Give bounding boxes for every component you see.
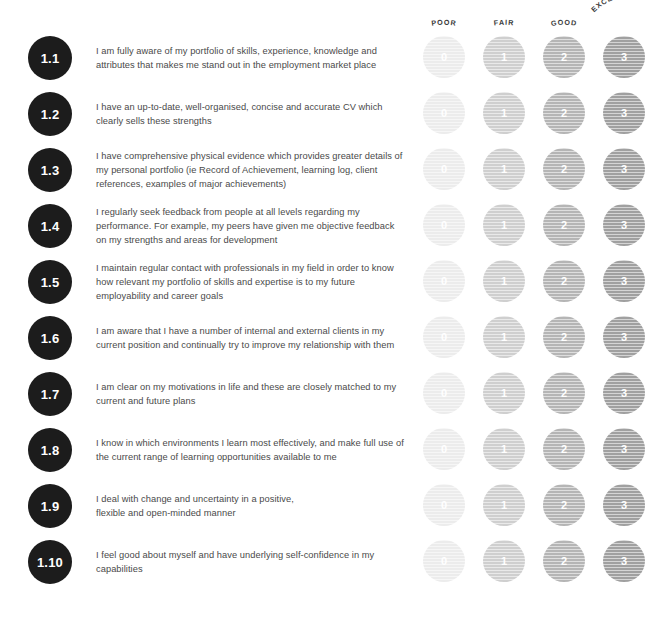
assessment-row: 1.6I am aware that I have a number of in… [0,310,670,366]
rating-option-value: 2 [561,387,567,399]
assessment-row: 1.2I have an up-to-date, well-organised,… [0,86,670,142]
rating-option-2[interactable]: 2 [543,148,585,190]
rating-option-value: 3 [621,107,627,119]
rating-option-2[interactable]: 2 [543,428,585,470]
rating-option-3[interactable]: 3 [603,316,645,358]
rating-option-3[interactable]: 3 [603,540,645,582]
rating-option-2[interactable]: 2 [543,484,585,526]
rating-option-3[interactable]: 3 [603,260,645,302]
rating-option-value: 0 [441,555,447,567]
rating-option-0[interactable]: 0 [423,428,465,470]
rating-scale: 0123 [0,540,670,584]
rating-option-1[interactable]: 1 [483,36,525,78]
rating-option-2[interactable]: 2 [543,36,585,78]
rating-option-0[interactable]: 0 [423,260,465,302]
rating-option-1[interactable]: 1 [483,540,525,582]
rating-option-2[interactable]: 2 [543,204,585,246]
assessment-row: 1.7I am clear on my motivations in life … [0,366,670,422]
rating-option-0[interactable]: 0 [423,316,465,358]
rating-option-value: 1 [501,275,507,287]
rating-option-value: 3 [621,275,627,287]
rating-option-value: 0 [441,51,447,63]
rating-option-value: 3 [621,51,627,63]
rating-scale: 0123 [0,36,670,80]
rating-option-value: 2 [561,499,567,511]
assessment-row: 1.1I am fully aware of my portfolio of s… [0,30,670,86]
rating-option-value: 0 [441,331,447,343]
rating-scale: 0123 [0,316,670,360]
rating-option-value: 1 [501,331,507,343]
rating-option-2[interactable]: 2 [543,372,585,414]
rating-option-3[interactable]: 3 [603,92,645,134]
assessment-row: 1.10I feel good about myself and have un… [0,534,670,590]
rating-option-3[interactable]: 3 [603,204,645,246]
rating-option-value: 0 [441,499,447,511]
rating-option-2[interactable]: 2 [543,92,585,134]
rating-option-value: 2 [561,219,567,231]
rating-option-1[interactable]: 1 [483,204,525,246]
rating-option-value: 3 [621,219,627,231]
rating-option-value: 1 [501,443,507,455]
rating-scale: 0123 [0,484,670,528]
rating-option-value: 3 [621,387,627,399]
svg-text:FAIR: FAIR [493,18,514,28]
rating-scale: 0123 [0,428,670,472]
assessment-row: 1.4I regularly seek feedback from people… [0,198,670,254]
rating-option-value: 3 [621,555,627,567]
rating-option-3[interactable]: 3 [603,484,645,526]
rating-option-value: 1 [501,51,507,63]
rating-option-1[interactable]: 1 [483,260,525,302]
rating-option-value: 0 [441,163,447,175]
assessment-row: 1.8I know in which environments I learn … [0,422,670,478]
rating-option-value: 1 [501,163,507,175]
rating-option-value: 2 [561,51,567,63]
rating-option-value: 0 [441,219,447,231]
rating-option-1[interactable]: 1 [483,148,525,190]
rating-scale: 0123 [0,372,670,416]
rating-option-value: 2 [561,443,567,455]
rating-option-2[interactable]: 2 [543,540,585,582]
rating-option-value: 3 [621,331,627,343]
rating-option-2[interactable]: 2 [543,316,585,358]
rating-option-1[interactable]: 1 [483,428,525,470]
svg-text:POOR: POOR [431,18,458,28]
rating-option-3[interactable]: 3 [603,36,645,78]
rating-option-1[interactable]: 1 [483,484,525,526]
rating-option-value: 1 [501,219,507,231]
svg-text:GOOD: GOOD [550,18,577,28]
rating-option-0[interactable]: 0 [423,36,465,78]
rating-option-value: 2 [561,331,567,343]
rating-option-0[interactable]: 0 [423,148,465,190]
rating-option-value: 3 [621,163,627,175]
assessment-sheet: POORFAIRGOODEXCELLENT 1.1I am fully awar… [0,0,670,634]
rating-option-value: 2 [561,107,567,119]
rating-option-0[interactable]: 0 [423,484,465,526]
rating-option-3[interactable]: 3 [603,148,645,190]
rating-scale: 0123 [0,148,670,192]
rating-option-0[interactable]: 0 [423,204,465,246]
rating-option-0[interactable]: 0 [423,92,465,134]
rating-option-value: 0 [441,275,447,287]
rating-option-value: 0 [441,387,447,399]
rating-option-0[interactable]: 0 [423,372,465,414]
rating-scale: 0123 [0,260,670,304]
rating-option-value: 2 [561,555,567,567]
rating-option-1[interactable]: 1 [483,372,525,414]
rating-option-2[interactable]: 2 [543,260,585,302]
assessment-row: 1.5I maintain regular contact with profe… [0,254,670,310]
rating-option-value: 2 [561,163,567,175]
rating-option-value: 0 [441,443,447,455]
rating-option-1[interactable]: 1 [483,92,525,134]
rating-option-value: 1 [501,555,507,567]
rating-option-value: 1 [501,387,507,399]
svg-text:EXCELLENT: EXCELLENT [589,0,641,14]
rating-option-1[interactable]: 1 [483,316,525,358]
rating-option-value: 3 [621,499,627,511]
assessment-row: 1.9I deal with change and uncertainty in… [0,478,670,534]
rating-option-3[interactable]: 3 [603,428,645,470]
rating-option-value: 0 [441,107,447,119]
rating-option-3[interactable]: 3 [603,372,645,414]
rating-option-value: 2 [561,275,567,287]
rating-option-0[interactable]: 0 [423,540,465,582]
rating-option-value: 1 [501,499,507,511]
